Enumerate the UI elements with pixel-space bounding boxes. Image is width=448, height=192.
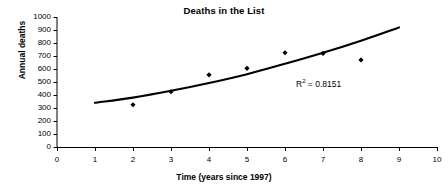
trendline-curve bbox=[95, 27, 399, 102]
y-axis-tick-label: 500 bbox=[17, 77, 51, 86]
chart-container: Deaths in the List Annual deaths Time (y… bbox=[0, 0, 448, 192]
x-axis-tick-label: 10 bbox=[427, 155, 447, 164]
y-axis-tick-label: 600 bbox=[17, 64, 51, 73]
y-axis-tick-label: 1000 bbox=[17, 12, 51, 21]
x-axis-tick-label: 3 bbox=[161, 155, 181, 164]
y-axis-ticks bbox=[54, 18, 58, 148]
x-axis-tick-label: 6 bbox=[275, 155, 295, 164]
y-axis-tick-label: 400 bbox=[17, 90, 51, 99]
data-point-marker bbox=[206, 72, 211, 77]
x-axis-tick-label: 8 bbox=[351, 155, 371, 164]
x-axis-tick-label: 1 bbox=[85, 155, 105, 164]
x-axis-tick-label: 7 bbox=[313, 155, 333, 164]
x-axis-tick-label: 4 bbox=[199, 155, 219, 164]
data-point-marker bbox=[244, 66, 249, 71]
y-axis-tick-label: 200 bbox=[17, 116, 51, 125]
y-axis-tick-label: 900 bbox=[17, 25, 51, 34]
r-squared-suffix: = 0.8151 bbox=[305, 79, 341, 89]
r-squared-annotation: R2 = 0.8151 bbox=[296, 78, 341, 89]
y-axis-tick-label: 100 bbox=[17, 129, 51, 138]
x-axis-tick-label: 5 bbox=[237, 155, 257, 164]
x-axis-tick-label: 2 bbox=[123, 155, 143, 164]
chart-plot-area bbox=[0, 0, 448, 192]
y-axis-tick-label: 800 bbox=[17, 38, 51, 47]
y-axis-tick-label: 300 bbox=[17, 103, 51, 112]
x-axis-tick-label: 9 bbox=[389, 155, 409, 164]
axis-lines bbox=[57, 17, 437, 148]
x-axis-tick-label: 0 bbox=[47, 155, 67, 164]
data-point-marker bbox=[282, 50, 287, 55]
y-axis-tick-label: 0 bbox=[17, 142, 51, 151]
y-axis-tick-label: 700 bbox=[17, 51, 51, 60]
data-point-marker bbox=[130, 102, 135, 107]
data-point-marker bbox=[358, 57, 363, 62]
